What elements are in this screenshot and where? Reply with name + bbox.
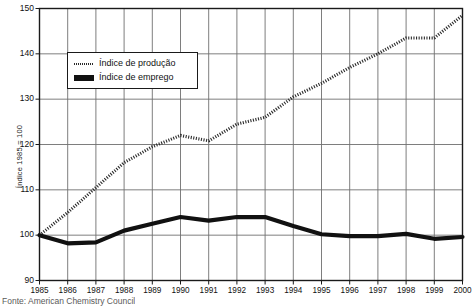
legend-label-producao: Índice de produção [99,58,176,69]
series-line-emprego [40,217,463,243]
dotted-line-swatch [74,62,94,66]
chart-legend: Índice de produção Índice de emprego [67,52,198,89]
series-line-producao [40,15,463,235]
legend-item-producao: Índice de produção [74,57,191,70]
solid-line-swatch [74,75,94,81]
source-note: Fonte: American Chemistry Council [2,296,135,306]
series-group [40,15,463,243]
x-tick-label: 2000 [446,286,476,296]
legend-label-emprego: Índice de emprego [99,72,174,83]
legend-item-emprego: Índice de emprego [74,71,191,84]
